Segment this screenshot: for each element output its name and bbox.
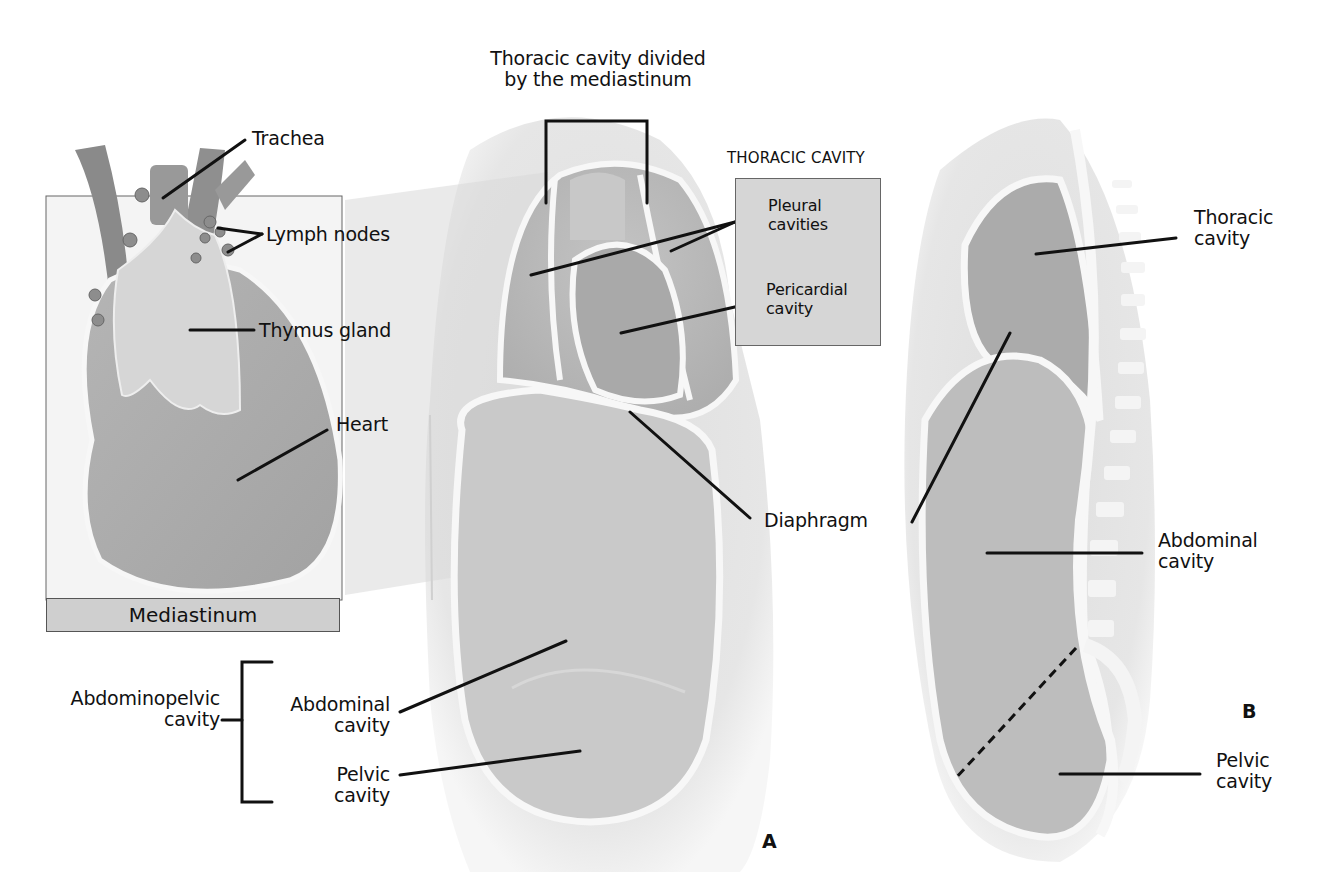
caption-thoracic-divided: Thoracic cavity divided by the mediastin…	[482, 48, 714, 90]
pelvic-a-line-1: Pelvic	[250, 764, 390, 785]
abdominopelvic-line-2: cavity	[40, 709, 220, 730]
label-heart: Heart	[336, 414, 388, 435]
abdominal-a-line-1: Abdominal	[250, 694, 390, 715]
label-thoracic-cavity-b: Thoracic cavity	[1194, 207, 1273, 249]
anatomy-diagram	[0, 0, 1318, 872]
label-lymph-nodes: Lymph nodes	[266, 224, 390, 245]
pericardial-line-2: cavity	[766, 299, 848, 318]
label-abdominal-cavity-b: Abdominal cavity	[1158, 530, 1258, 572]
label-abdominopelvic-cavity: Abdominopelvic cavity	[40, 688, 220, 730]
panel-b-letter: B	[1242, 700, 1256, 722]
panel-a-letter: A	[762, 830, 777, 852]
caption-line-1: Thoracic cavity divided	[482, 48, 714, 69]
thoracic-b-line-1: Thoracic	[1194, 207, 1273, 228]
label-thymus-gland: Thymus gland	[259, 320, 391, 341]
pleural-line-2: cavities	[768, 215, 828, 234]
pleural-line-1: Pleural	[768, 196, 828, 215]
label-trachea: Trachea	[252, 128, 325, 149]
label-pelvic-cavity-a: Pelvic cavity	[250, 764, 390, 806]
pelvic-b-line-1: Pelvic	[1216, 750, 1272, 771]
abdominal-a-line-2: cavity	[250, 715, 390, 736]
pericardial-line-1: Pericardial	[766, 280, 848, 299]
panel-a-torso	[345, 117, 773, 872]
label-diaphragm: Diaphragm	[764, 510, 868, 531]
label-abdominal-cavity-a: Abdominal cavity	[250, 694, 390, 736]
thoracic-b-line-2: cavity	[1194, 228, 1273, 249]
caption-line-2: by the mediastinum	[482, 69, 714, 90]
pelvic-b-line-2: cavity	[1216, 771, 1272, 792]
mediastinum-inset	[46, 145, 342, 600]
abdominopelvic-line-1: Abdominopelvic	[40, 688, 220, 709]
abdominal-b-line-1: Abdominal	[1158, 530, 1258, 551]
label-pleural-cavities: Pleural cavities	[768, 196, 828, 234]
abdominal-b-line-2: cavity	[1158, 551, 1258, 572]
mediastinum-footer: Mediastinum	[46, 598, 340, 632]
label-thoracic-cavity-title: THORACIC CAVITY	[727, 148, 865, 169]
pelvic-a-line-2: cavity	[250, 785, 390, 806]
label-pericardial-cavity: Pericardial cavity	[766, 280, 848, 318]
label-pelvic-cavity-b: Pelvic cavity	[1216, 750, 1272, 792]
panel-b-sagittal	[904, 119, 1155, 862]
